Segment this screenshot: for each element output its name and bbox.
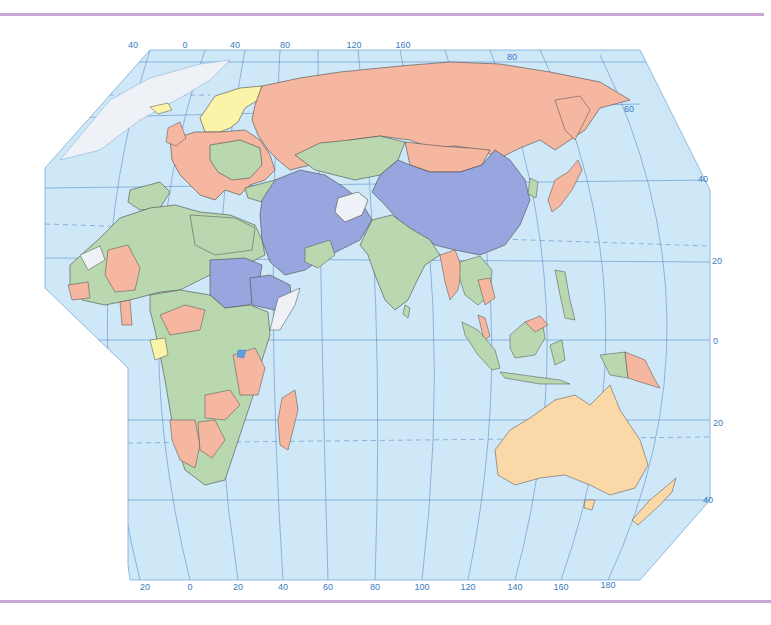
- lon-label: 40: [278, 582, 288, 592]
- lat-label: 80: [507, 52, 517, 62]
- lon-label: 20: [140, 582, 150, 592]
- ghana: [120, 300, 132, 325]
- lat-label: 40: [703, 495, 713, 505]
- lon-label: 100: [414, 582, 429, 592]
- lon-label: 120: [460, 582, 475, 592]
- lon-label: 180: [600, 580, 615, 590]
- west-africa-salmon: [68, 282, 90, 300]
- lon-label: 160: [553, 582, 568, 592]
- lon-label: 160: [395, 40, 410, 50]
- lat-label: 0: [713, 336, 718, 346]
- world-map: [0, 0, 771, 625]
- lat-label: 60: [624, 104, 634, 114]
- lon-label: 0: [187, 582, 192, 592]
- lon-label: 40: [230, 40, 240, 50]
- lon-label: 20: [233, 582, 243, 592]
- lon-label: 0: [182, 40, 187, 50]
- lon-label: 60: [323, 582, 333, 592]
- lon-label: 40: [128, 40, 138, 50]
- lon-label: 80: [370, 582, 380, 592]
- lat-label: 20: [713, 418, 723, 428]
- lon-label: 120: [346, 40, 361, 50]
- lat-label: 20: [712, 256, 722, 266]
- korea: [528, 178, 538, 198]
- lat-label: 40: [698, 174, 708, 184]
- lon-label: 140: [507, 582, 522, 592]
- lon-label: 80: [280, 40, 290, 50]
